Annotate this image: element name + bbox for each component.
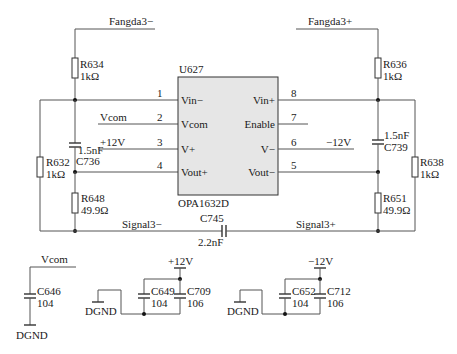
- net-label-fangda-minus: Fangda3−: [109, 15, 153, 27]
- vcom-decoupling: Vcom C646 104 DGND: [16, 253, 76, 341]
- pin-number-7: 7: [291, 111, 297, 123]
- pin-number-8: 8: [291, 87, 297, 99]
- plus12v-decoupling: +12V C649 104 C709 106 DGND: [85, 255, 211, 317]
- pin-number-4: 4: [157, 159, 163, 171]
- output-line: C745 2.2nF Signal3− Signal3+: [40, 212, 415, 248]
- r632-value: 1kΩ: [46, 168, 65, 180]
- ic-u627: U627 Vin− Vcom V+ Vout+ Vin+ Enable V− V…: [178, 63, 278, 209]
- junction-dot: [283, 312, 287, 316]
- c649-value: 104: [151, 297, 168, 309]
- net-label-plus12v: +12V: [100, 136, 125, 148]
- ic-pin-name-enable: Enable: [244, 118, 275, 130]
- resistor-r651: [375, 193, 381, 213]
- pin-number-1: 1: [157, 87, 163, 99]
- resistor-r638: [412, 157, 418, 177]
- c745-ref: C745: [200, 212, 224, 224]
- c652-ref: C652: [292, 285, 316, 297]
- net-label-minus12v: −12V: [326, 136, 351, 148]
- r636-value: 1kΩ: [383, 70, 402, 82]
- net-label-plus12v-supply: +12V: [168, 255, 193, 267]
- c646-value: 104: [37, 297, 54, 309]
- c745-value: 2.2nF: [198, 236, 223, 248]
- net-label-vcom: Vcom: [100, 111, 127, 123]
- ground-label-dgnd: DGND: [85, 305, 117, 317]
- ground-label-dgnd: DGND: [16, 329, 48, 341]
- net-label-signal-plus: Signal3+: [296, 218, 336, 230]
- r638-ref: R638: [420, 156, 444, 168]
- ic-pin-name-vminus: V−: [261, 143, 275, 155]
- r648-ref: R648: [81, 192, 105, 204]
- ic-pin-name-vin-minus: Vin−: [181, 94, 203, 106]
- c736-ref: C736: [76, 155, 100, 167]
- ground-label-dgnd: DGND: [227, 305, 259, 317]
- resistor-r636: [375, 58, 381, 78]
- net-label-vcom-decoupling: Vcom: [41, 253, 68, 265]
- ic-pin-name-vin-plus: Vin+: [253, 94, 275, 106]
- resistor-r632: [37, 157, 43, 177]
- ic-part-number: OPA1632D: [178, 197, 229, 209]
- r634-ref: R634: [80, 58, 104, 70]
- c739-ref: C739: [384, 141, 408, 153]
- net-label-minus12v-supply: −12V: [308, 255, 333, 267]
- pin-number-3: 3: [157, 136, 163, 148]
- pin-number-6: 6: [291, 136, 297, 148]
- r632-ref: R632: [46, 156, 70, 168]
- ic-ref: U627: [179, 63, 204, 75]
- r651-value: 49.9Ω: [383, 204, 410, 216]
- net-label-fangda-plus: Fangda3+: [308, 15, 352, 27]
- c709-ref: C709: [187, 285, 211, 297]
- circuit-schematic: Fangda3− R634 1kΩ R632 1kΩ 1.5nF C736 R6…: [0, 0, 457, 354]
- c712-value: 106: [327, 297, 344, 309]
- net-label-signal-minus: Signal3−: [122, 218, 162, 230]
- ic-pin-name-vcom: Vcom: [181, 118, 208, 130]
- c739-value: 1.5nF: [384, 129, 409, 141]
- r638-value: 1kΩ: [420, 168, 439, 180]
- r636-ref: R636: [383, 58, 407, 70]
- ic-pin-name-vout-plus: Vout+: [181, 166, 208, 178]
- ic-pin-name-vout-minus: Vout−: [248, 166, 275, 178]
- pin-number-5: 5: [291, 159, 297, 171]
- resistor-r634: [72, 58, 78, 78]
- resistor-r648: [72, 193, 78, 213]
- r648-value: 49.9Ω: [81, 204, 108, 216]
- c709-value: 106: [187, 297, 204, 309]
- r634-value: 1kΩ: [80, 70, 99, 82]
- c649-ref: C649: [151, 285, 175, 297]
- pin-number-2: 2: [157, 111, 163, 123]
- r651-ref: R651: [383, 192, 407, 204]
- minus12v-decoupling: −12V C652 104 C712 106 DGND: [227, 255, 351, 317]
- c646-ref: C646: [37, 285, 61, 297]
- c712-ref: C712: [327, 285, 351, 297]
- c652-value: 104: [292, 297, 309, 309]
- junction-dot: [142, 312, 146, 316]
- ic-pin-name-vplus: V+: [181, 143, 195, 155]
